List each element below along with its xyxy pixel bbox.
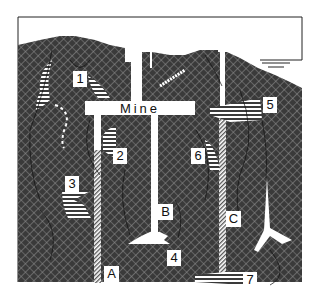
- ore-label-7: 7: [243, 272, 257, 288]
- ore-label-5: 5: [263, 97, 277, 113]
- water-icon: [262, 63, 290, 67]
- shaft-a-upper: [94, 115, 101, 150]
- mine-label: Mine: [90, 101, 190, 116]
- mine-cross-section-diagram: Mine 1 2 3 4 5 6 7 A B C: [0, 0, 320, 303]
- shaft-label-b: B: [158, 204, 173, 220]
- shaft-a: [94, 150, 101, 283]
- ore-label-6: 6: [191, 148, 205, 164]
- ore-label-2: 2: [113, 148, 127, 164]
- shaft-b: [151, 115, 158, 233]
- ore-label-4: 4: [167, 250, 181, 266]
- ore-label-1: 1: [73, 71, 87, 87]
- shaft-c: [219, 107, 226, 277]
- main-shaft: [131, 45, 142, 101]
- shaft-label-a: A: [104, 266, 119, 282]
- shaft-label-c: C: [226, 211, 241, 227]
- diagram-canvas: [0, 0, 320, 303]
- shaft-c-upper: [220, 52, 225, 107]
- ore-label-3: 3: [65, 176, 79, 192]
